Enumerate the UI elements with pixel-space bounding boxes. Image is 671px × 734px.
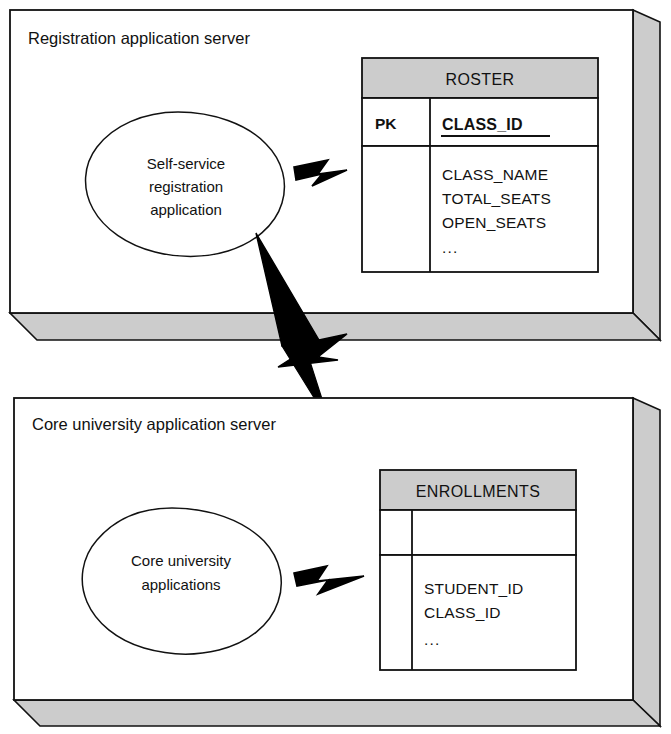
roster-table-field-1: TOTAL_SEATS [442, 190, 551, 207]
core-university-server-label: Core university application server [32, 415, 276, 433]
enrollments-table-ellipsis: ... [424, 631, 441, 648]
core-university-server-bottom-panel [14, 700, 660, 726]
roster-table-ellipsis: ... [442, 239, 459, 256]
self-service-app-line-1: Self-service [147, 155, 225, 172]
roster-table-name: ROSTER [445, 71, 514, 88]
core-university-app-line-2: applications [141, 576, 220, 593]
roster-table-key-field-0: CLASS_ID [442, 116, 523, 133]
enrollments-table-field-0: STUDENT_ID [424, 580, 523, 597]
enrollments-table-field-1: CLASS_ID [424, 604, 501, 621]
roster-table-field-0: CLASS_NAME [442, 166, 548, 183]
roster-table-body [362, 146, 598, 272]
self-service-app-line-3: application [150, 201, 222, 218]
registration-server-label: Registration application server [28, 29, 250, 47]
enrollments-table-name: ENROLLMENTS [416, 483, 540, 500]
roster-table: ROSTER PK CLASS_ID CLASS_NAME TOTAL_SEAT… [362, 58, 598, 272]
diagram-canvas: Registration application server Self-ser… [0, 0, 671, 734]
enrollments-table: ENROLLMENTS STUDENT_ID CLASS_ID ... [380, 470, 576, 670]
roster-table-pk-label: PK [375, 115, 397, 132]
architecture-diagram: Registration application server Self-ser… [0, 0, 671, 734]
roster-table-field-2: OPEN_SEATS [442, 214, 546, 231]
core-university-server-right-panel [633, 398, 660, 726]
core-university-app-node: Core university applications [82, 508, 281, 654]
core-university-app-line-1: Core university [131, 552, 232, 569]
self-service-app-line-2: registration [149, 178, 223, 195]
enrollments-table-key-row [380, 510, 576, 555]
registration-server-right-panel [633, 10, 660, 340]
